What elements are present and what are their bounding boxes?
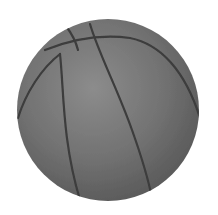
basketball-image bbox=[0, 0, 218, 215]
ball-body bbox=[17, 19, 199, 201]
basketball-icon bbox=[0, 0, 218, 215]
